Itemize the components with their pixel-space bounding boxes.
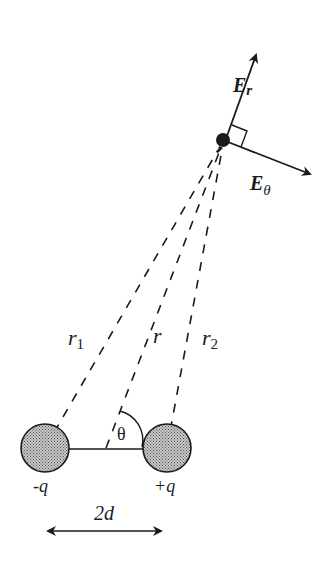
positive-charge-label: +q <box>154 476 175 496</box>
distance-lines <box>45 150 222 448</box>
dipole-diagram: Er Eθ r1 r r2 θ -q +q 2d <box>0 0 335 587</box>
separation-label: 2d <box>94 502 115 524</box>
negative-charge <box>21 424 69 472</box>
r-label: r <box>153 323 162 348</box>
etheta-label: Eθ <box>249 172 271 198</box>
r1-line <box>45 150 218 448</box>
etheta-vector <box>228 142 310 174</box>
r2-label: r2 <box>202 325 218 352</box>
theta-label: θ <box>117 424 126 444</box>
positive-charge <box>143 424 191 472</box>
r1-label: r1 <box>68 325 84 352</box>
negative-charge-label: -q <box>33 476 48 496</box>
er-label: Er <box>232 74 252 98</box>
r2-line <box>167 150 222 448</box>
r-line <box>106 150 220 448</box>
